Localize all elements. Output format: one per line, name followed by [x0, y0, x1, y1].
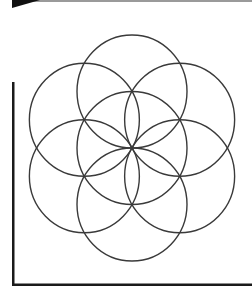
- frame-bottom-line: [12, 284, 252, 287]
- top-left-wedge: [12, 0, 40, 8]
- frame-left-line: [12, 82, 15, 286]
- circle-group: [29, 35, 234, 261]
- seed-of-life-diagram: [0, 0, 252, 289]
- top-bar: [12, 0, 252, 2]
